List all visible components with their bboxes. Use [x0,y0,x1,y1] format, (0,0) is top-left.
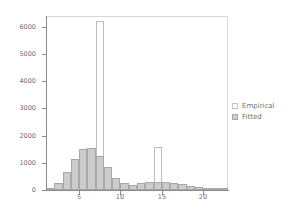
y-tick-mark-5000 [42,54,46,55]
y-tick-label-5000: 5000 [10,51,36,58]
y-tick-label-0: 0 [10,187,36,194]
bar-fitted-16 [170,183,178,190]
y-tick-label-6000: 6000 [10,24,36,31]
bar-fitted-8 [104,167,112,190]
x-tick-label-20: 20 [193,194,213,201]
y-tick-label-4000: 4000 [10,78,36,85]
legend-swatch-empirical-icon [232,103,238,109]
bar-fitted-12 [137,183,145,190]
bar-fitted-7 [96,156,104,190]
bar-fitted-6 [87,148,95,190]
bar-fitted-13 [145,182,153,190]
plot-area [46,16,228,190]
y-tick-mark-4000 [42,81,46,82]
bar-fitted-14 [154,182,162,190]
y-tick-mark-3000 [42,108,46,109]
y-tick-label-3000: 3000 [10,105,36,112]
y-tick-mark-0 [42,190,46,191]
y-tick-mark-1000 [42,163,46,164]
bar-fitted-9 [112,178,120,190]
y-tick-mark-6000 [42,27,46,28]
x-axis-line [46,190,229,191]
legend-item-fitted[interactable]: Fitted [232,111,275,122]
x-tick-label-15: 15 [152,194,172,201]
y-tick-label-2000: 2000 [10,133,36,140]
legend-item-empirical[interactable]: Empirical [232,100,275,111]
y-axis-line [46,16,47,191]
bar-fitted-3 [63,172,71,190]
legend-label: Empirical [242,102,275,110]
bar-fitted-4 [71,159,79,190]
y-tick-mark-2000 [42,136,46,137]
y-tick-label-1000: 1000 [10,160,36,167]
bar-fitted-15 [162,182,170,190]
chart-root: 0100020003000400050006000 5101520 Empiri… [0,0,294,220]
x-tick-label-5: 5 [69,194,89,201]
x-tick-label-10: 10 [110,194,130,201]
bar-fitted-2 [54,183,62,190]
chart-legend: EmpiricalFitted [232,100,275,122]
legend-swatch-fitted-icon [232,114,238,120]
bar-fitted-5 [79,149,87,190]
legend-label: Fitted [242,113,262,121]
